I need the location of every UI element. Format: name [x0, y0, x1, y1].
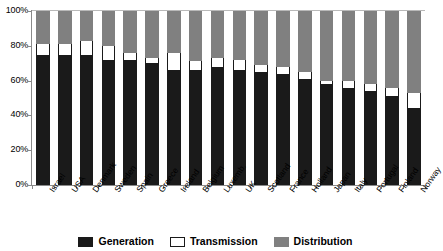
bar-slot [294, 11, 316, 185]
bar-segment-transmission [189, 61, 203, 70]
bar-segment-transmission [58, 44, 72, 54]
legend-swatch-icon [170, 237, 185, 247]
y-axis-tick-label: 80% [0, 41, 28, 50]
bar-segment-transmission [407, 93, 421, 109]
bar-segment-transmission [364, 84, 378, 91]
bar-segment-transmission [123, 53, 137, 60]
bar-slot [359, 11, 381, 185]
legend-swatch-icon [78, 237, 93, 247]
stacked-bar[interactable] [167, 11, 181, 185]
bar-segment-generation [364, 91, 378, 185]
stacked-bar[interactable] [123, 11, 137, 185]
x-axis-labels: IsraelUSADenmarkSwedenSpainGreeceIreland… [32, 189, 425, 225]
bar-segment-distribution [364, 11, 378, 84]
y-axis-tick-label: 100% [0, 6, 28, 15]
legend-item[interactable]: Generation [78, 236, 153, 247]
y-axis-tick-label: 0% [0, 180, 28, 189]
stacked-bar[interactable] [36, 11, 50, 185]
y-axis-tick-label: 40% [0, 110, 28, 119]
chart-legend: GenerationTransmissionDistribution [0, 236, 431, 247]
bar-segment-transmission [167, 53, 181, 70]
bar-slot [316, 11, 338, 185]
stacked-bar[interactable] [80, 11, 94, 185]
bar-segment-transmission [342, 81, 356, 88]
bar-segment-distribution [167, 11, 181, 53]
bar-segment-distribution [80, 11, 94, 41]
bar-slot [163, 11, 185, 185]
stacked-bar[interactable] [320, 11, 334, 185]
bar-slot [272, 11, 294, 185]
bar-segment-transmission [233, 60, 247, 70]
bar-segment-distribution [123, 11, 137, 53]
stacked-bar[interactable] [211, 11, 225, 185]
bar-slot [185, 11, 207, 185]
bar-segment-transmission [298, 72, 312, 79]
y-axis-tick-label: 60% [0, 76, 28, 85]
bar-segment-distribution [102, 11, 116, 46]
legend-item[interactable]: Distribution [274, 236, 353, 247]
bar-slot [381, 11, 403, 185]
bar-slot [207, 11, 229, 185]
stacked-bar[interactable] [189, 11, 203, 185]
bar-segment-distribution [276, 11, 290, 67]
stacked-bar[interactable] [102, 11, 116, 185]
stacked-bar[interactable] [385, 11, 399, 185]
bar-segment-transmission [80, 41, 94, 55]
bar-segment-distribution [407, 11, 421, 93]
bar-slot [76, 11, 98, 185]
bar-segment-distribution [342, 11, 356, 81]
legend-label: Generation [98, 236, 153, 247]
bar-segment-distribution [145, 11, 159, 58]
bar-group [32, 11, 425, 185]
bar-slot [250, 11, 272, 185]
stacked-bar[interactable] [58, 11, 72, 185]
bar-segment-transmission [36, 44, 50, 54]
stacked-bar[interactable] [342, 11, 356, 185]
legend-item[interactable]: Transmission [170, 236, 258, 247]
stacked-bar[interactable] [254, 11, 268, 185]
bar-segment-generation [36, 55, 50, 186]
bar-segment-transmission [276, 67, 290, 74]
bar-segment-transmission [102, 46, 116, 60]
y-axis-tick-label: 20% [0, 145, 28, 154]
bar-slot [32, 11, 54, 185]
bar-segment-transmission [211, 58, 225, 67]
bar-segment-distribution [36, 11, 50, 44]
bar-slot [338, 11, 360, 185]
legend-swatch-icon [274, 237, 289, 247]
stacked-bar[interactable] [364, 11, 378, 185]
bar-slot [54, 11, 76, 185]
bar-segment-distribution [298, 11, 312, 72]
stacked-bar[interactable] [233, 11, 247, 185]
stacked-bar[interactable] [298, 11, 312, 185]
stacked-bar[interactable] [145, 11, 159, 185]
bar-segment-distribution [233, 11, 247, 60]
bar-segment-distribution [189, 11, 203, 61]
bar-segment-distribution [385, 11, 399, 88]
bar-segment-transmission [254, 65, 268, 72]
bar-slot [119, 11, 141, 185]
bar-segment-distribution [211, 11, 225, 58]
bar-segment-generation [58, 55, 72, 186]
stacked-bar[interactable] [276, 11, 290, 185]
legend-label: Transmission [190, 236, 258, 247]
bar-slot [97, 11, 119, 185]
bar-slot [228, 11, 250, 185]
legend-label: Distribution [294, 236, 353, 247]
bar-segment-distribution [254, 11, 268, 65]
bar-segment-generation [145, 63, 159, 185]
bar-segment-distribution [320, 11, 334, 81]
bar-segment-generation [254, 72, 268, 185]
bar-segment-distribution [58, 11, 72, 44]
bar-segment-generation [80, 55, 94, 186]
bar-segment-transmission [385, 88, 399, 97]
stacked-bar[interactable] [407, 11, 421, 185]
bar-slot [403, 11, 425, 185]
bar-slot [141, 11, 163, 185]
